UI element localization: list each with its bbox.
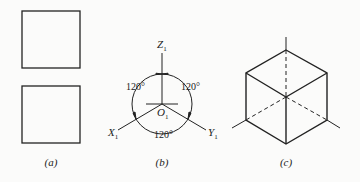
y-axis [162, 104, 206, 130]
z-axis-label: Z1 [157, 38, 167, 53]
angle-label-bottom: 120° [154, 129, 173, 140]
angle-label-right: 120° [181, 81, 200, 92]
top-view-square [22, 86, 80, 143]
y-axis-label: Y1 [208, 126, 218, 141]
figure-canvas: (a) Z1 X1 Y1 O1 120° 120° 120° (b) (c) [0, 0, 360, 182]
x-axis-label: X1 [107, 126, 119, 141]
arrowhead [156, 73, 162, 74]
caption-c: (c) [280, 156, 293, 169]
panel-a [22, 11, 80, 143]
arrowhead [133, 112, 136, 119]
caption-b: (b) [156, 156, 169, 169]
front-view-square [22, 11, 80, 68]
arrowhead [162, 73, 168, 74]
hidden-y-axis [286, 97, 327, 120]
x-axis-extension [232, 120, 246, 128]
y-axis-extension [327, 120, 340, 128]
x-axis [118, 104, 162, 130]
panel-c [232, 37, 340, 144]
hidden-x-axis [246, 97, 286, 120]
angle-label-left: 120° [126, 81, 145, 92]
panel-b [118, 53, 206, 134]
caption-a: (a) [45, 156, 58, 169]
arrowhead [188, 112, 191, 119]
origin-label: O1 [157, 106, 169, 121]
